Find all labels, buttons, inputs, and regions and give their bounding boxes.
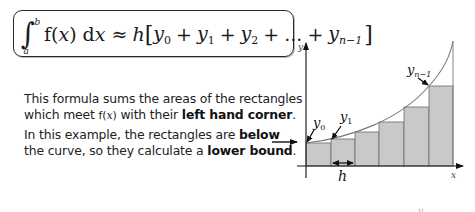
- yn-1-arrow: [418, 78, 428, 85]
- y-axis-label: y: [297, 42, 304, 52]
- rectangle-6: [429, 86, 453, 166]
- cut-off-label: y: [417, 206, 424, 212]
- h-label: h: [338, 168, 347, 184]
- x-axis-label: x: [451, 170, 456, 180]
- rectangles: [306, 86, 453, 166]
- rectangle-1: [306, 143, 331, 166]
- yn-1-label: yn−1: [406, 62, 431, 79]
- riemann-sum-diagram: y x y0 y1 yn−1 h y: [0, 0, 475, 212]
- rectangle-3: [355, 132, 379, 166]
- rectangle-4: [379, 122, 404, 166]
- rectangle-2: [331, 139, 355, 166]
- y0-label: y0: [312, 115, 325, 132]
- y0-arrow: [307, 130, 314, 142]
- rectangle-5: [404, 107, 429, 166]
- y1-label: y1: [339, 109, 352, 126]
